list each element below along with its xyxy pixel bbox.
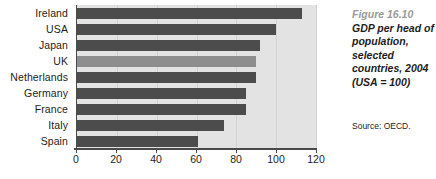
bar-row [77,133,316,149]
figure-caption-text: GDP per head ofpopulation,selectedcountr… [352,22,436,90]
bar-spain[interactable] [77,136,198,147]
figure-number: Figure 16.10 [352,8,436,22]
x-tick-label: 40 [150,154,162,165]
caption-line: countries, 2004 [352,62,436,76]
bar-row [77,101,316,117]
x-axis-tick-labels: 020406080100120 [76,154,316,170]
bar-row [77,21,316,37]
caption-line: (USA = 100) [352,76,436,90]
x-tick-label: 100 [267,154,285,165]
category-label: UK [0,53,72,69]
x-tick-label: 60 [190,154,202,165]
bar-chart: IrelandUSAJapanUKNetherlandsGermanyFranc… [0,0,322,179]
bar-row [77,53,316,69]
category-label: France [0,101,72,117]
x-tick-label: 0 [73,154,79,165]
x-tick-label: 80 [230,154,242,165]
caption-line: GDP per head of [352,22,436,36]
caption-line: population, [352,35,436,49]
figure-caption-block: Figure 16.10 GDP per head ofpopulation,s… [352,8,436,89]
category-axis: IrelandUSAJapanUKNetherlandsGermanyFranc… [0,5,72,149]
category-label: Spain [0,133,72,149]
source-note: Source: OECD. [352,122,411,131]
bar-usa[interactable] [77,24,276,35]
category-label: USA [0,21,72,37]
bar-italy[interactable] [77,120,224,131]
caption-line: selected [352,49,436,63]
x-tick-label: 20 [110,154,122,165]
figure-container: IrelandUSAJapanUKNetherlandsGermanyFranc… [0,0,436,179]
bar-japan[interactable] [77,40,260,51]
bar-netherlands[interactable] [77,72,256,83]
bar-row [77,117,316,133]
x-tick-label: 120 [307,154,325,165]
category-label: Italy [0,117,72,133]
plot-area [76,5,316,149]
gridline [316,5,317,149]
category-label: Netherlands [0,69,72,85]
bar-uk[interactable] [77,56,256,67]
category-label: Japan [0,37,72,53]
category-label: Germany [0,85,72,101]
category-label: Ireland [0,5,72,21]
bar-row [77,85,316,101]
bar-series [77,5,316,149]
bar-row [77,69,316,85]
bar-france[interactable] [77,104,246,115]
bar-germany[interactable] [77,88,246,99]
bar-row [77,5,316,21]
bar-row [77,37,316,53]
bar-ireland[interactable] [77,8,302,19]
